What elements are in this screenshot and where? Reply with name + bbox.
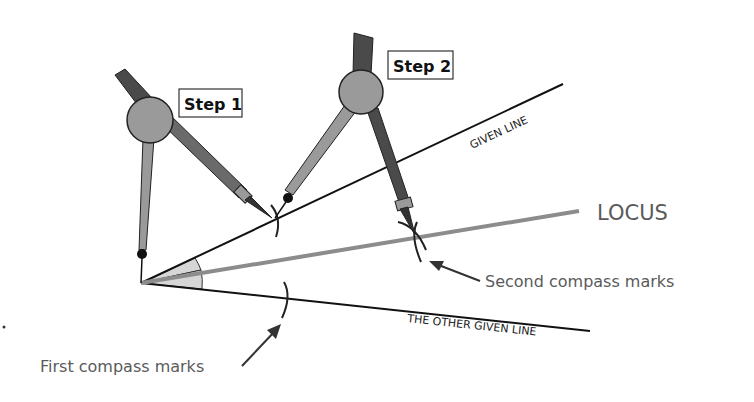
angle-bisector-diagram: Step 1 Step 2 GIVEN LINE THE OTHER GIVEN… [0, 0, 754, 402]
first-compass-mark-lower [282, 282, 288, 318]
compass-2-needle-joint [283, 193, 293, 203]
compass-1-pencil-tip [245, 196, 272, 218]
second-compass-mark-2 [414, 222, 421, 262]
compass-2-hinge [339, 70, 383, 114]
step-1-label: Step 1 [184, 95, 242, 114]
other-given-line-label: THE OTHER GIVEN LINE [406, 312, 537, 339]
compass-1-hinge [127, 97, 173, 143]
compass-1-needle-leg [139, 138, 154, 250]
compass-2-pencil-tip [400, 207, 415, 235]
locus-label: LOCUS [597, 201, 668, 225]
second-marks-label: Second compass marks [485, 272, 674, 291]
second-marks-arrow [429, 261, 480, 281]
compass-2-pencil-arm [367, 108, 409, 202]
scan-dot [3, 326, 6, 329]
compass-1-needle-joint [137, 249, 147, 259]
compass-1-needle [141, 258, 142, 283]
first-marks-arrow [242, 324, 281, 366]
compass-2-handle [353, 33, 373, 75]
compass-1-pencil-arm [160, 113, 247, 198]
step-2-label-box: Step 2 [388, 51, 453, 79]
step-2-label: Step 2 [393, 57, 451, 76]
first-marks-label: First compass marks [40, 357, 204, 376]
compass-2-needle-leg [285, 105, 356, 195]
given-line-label: GIVEN LINE [468, 113, 530, 151]
step-1-label-box: Step 1 [179, 89, 242, 117]
